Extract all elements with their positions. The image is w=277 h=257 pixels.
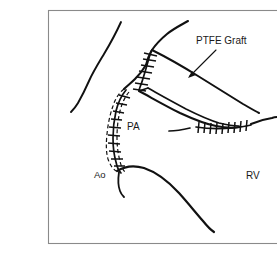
surgical-illustration: PTFE Graft PA Ao RV — [0, 0, 277, 257]
label-ao: Ao — [94, 169, 106, 180]
label-pa: PA — [127, 121, 140, 132]
label-ptfe-graft: PTFE Graft — [196, 35, 247, 46]
figure-root: PTFE Graft PA Ao RV — [0, 0, 277, 257]
label-rv: RV — [246, 170, 260, 181]
